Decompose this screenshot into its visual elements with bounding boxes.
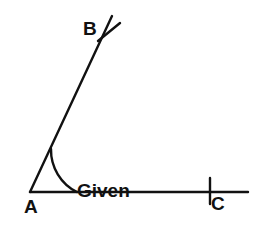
given-angle-annotation-line-1: Given [77,180,130,202]
given-angle-annotation: Given angle [77,136,130,234]
arc-tick-mark-on-ab-icon [98,23,120,41]
angle-arc [51,149,77,192]
vertex-label-c: C [211,194,225,213]
geometry-figure: B A C Given angle [0,0,263,234]
vertex-label-a: A [24,197,38,216]
vertex-label-b: B [83,19,97,38]
